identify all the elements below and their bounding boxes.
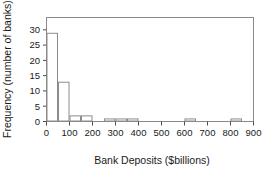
x-axis-title: Bank Deposits ($billions)	[94, 154, 210, 166]
histogram-figure: Frequency (number of banks) Bank Deposit…	[0, 0, 270, 173]
x-tick-label: 100	[62, 127, 78, 138]
x-axis-tick-labels: 0 100 200 300 400 500 600 700 800 900	[44, 127, 262, 138]
histogram-chart: Frequency (number of banks) Bank Deposit…	[0, 0, 270, 173]
x-tick-label: 700	[200, 127, 216, 138]
y-tick-label: 0	[35, 116, 40, 127]
x-tick-label: 300	[108, 127, 124, 138]
x-tick-label: 400	[131, 127, 147, 138]
y-tick-label: 5	[35, 101, 40, 112]
x-tick-label: 500	[154, 127, 170, 138]
y-tick-label: 30	[29, 24, 40, 35]
x-tick-label: 0	[44, 127, 49, 138]
y-tick-label: 10	[29, 85, 40, 96]
x-tick-label: 800	[223, 127, 239, 138]
x-tick-label: 200	[85, 127, 101, 138]
y-tick-label: 20	[29, 55, 40, 66]
chart-background	[0, 0, 270, 173]
y-tick-label: 15	[29, 70, 40, 81]
x-tick-label: 900	[246, 127, 262, 138]
y-axis-title: Frequency (number of banks)	[1, 0, 13, 138]
x-tick-label: 600	[177, 127, 193, 138]
y-tick-label: 25	[29, 39, 40, 50]
